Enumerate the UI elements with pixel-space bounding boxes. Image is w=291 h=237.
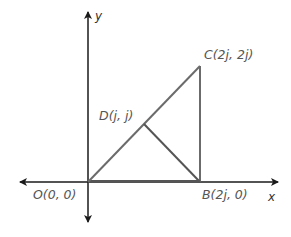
point-d-label: D(j, j) — [99, 108, 133, 123]
x-axis-label: x — [267, 190, 276, 204]
coordinate-diagram: y x C(2j, 2j) D(j, j) O(0, 0) B(2j, 0) — [0, 0, 291, 237]
point-b-label: B(2j, 0) — [202, 187, 248, 202]
point-o-label: O(0, 0) — [33, 187, 76, 202]
segment-db — [144, 124, 200, 182]
y-axis-label: y — [94, 9, 103, 23]
point-c-label: C(2j, 2j) — [204, 47, 253, 62]
